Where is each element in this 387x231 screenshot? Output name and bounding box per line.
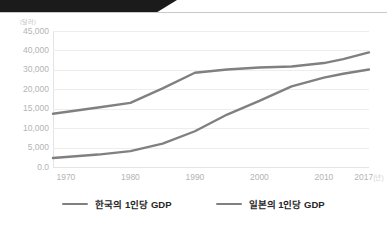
y-tick-label: 30,000	[3, 64, 49, 74]
y-axis-ticks: 45,00040,00030,00020,00015,00010,0005,00…	[0, 31, 49, 167]
legend-item-korea[interactable]: 한국의 1인당 GDP	[62, 197, 171, 211]
x-axis-ticks: 197019801990200020102017(년)	[53, 172, 369, 186]
legend-swatch-korea	[62, 203, 88, 206]
chart-legend: 한국의 1인당 GDP 일본의 1인당 GDP	[0, 197, 387, 211]
series-lines	[53, 31, 369, 167]
legend-swatch-japan	[216, 203, 242, 206]
y-tick-label: 15,000	[3, 103, 49, 113]
series-line-korea	[53, 69, 369, 158]
x-tick-label: 2000	[250, 172, 269, 182]
legend-label-korea: 한국의 1인당 GDP	[95, 197, 171, 211]
y-tick-label: 40,000	[3, 45, 49, 55]
x-tick-label: 1980	[121, 172, 140, 182]
x-tick-label: 1970	[56, 172, 75, 182]
y-tick-label: 10,000	[3, 123, 49, 133]
plot-area	[53, 31, 369, 167]
y-tick-label: 45,000	[3, 26, 49, 36]
series-line-japan	[53, 52, 369, 113]
x-tick-label: 2017(년)	[354, 172, 383, 182]
x-tick-label: 2010	[314, 172, 333, 182]
y-tick-label: 5,000	[3, 142, 49, 152]
banner-divider	[0, 12, 387, 13]
y-tick-label: 20,000	[3, 84, 49, 94]
x-tick-label: 1990	[185, 172, 204, 182]
gridline	[53, 167, 369, 168]
x-axis-unit-suffix: (년)	[373, 174, 383, 181]
y-tick-label: 0.0	[3, 162, 49, 172]
legend-item-japan[interactable]: 일본의 1인당 GDP	[216, 197, 325, 211]
legend-label-japan: 일본의 1인당 GDP	[249, 197, 325, 211]
chart-figure: (달러) 45,00040,00030,00020,00015,00010,00…	[0, 0, 387, 231]
